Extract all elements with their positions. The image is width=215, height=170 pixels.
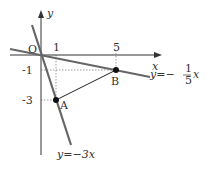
point-a-label: A xyxy=(59,99,69,112)
coordinate-diagram: y x O 1 5 -1 -3 A B y=−3x y=− 1 5 x xyxy=(0,0,215,170)
x-axis-arrow-icon xyxy=(154,52,162,58)
point-b xyxy=(113,67,119,73)
y-tick-neg1: -1 xyxy=(22,64,33,77)
y-axis-label: y xyxy=(46,7,54,20)
x-tick-1: 1 xyxy=(53,41,60,54)
point-b-label: B xyxy=(111,75,119,88)
y-axis-arrow-icon xyxy=(38,10,44,18)
line-y-neg3x xyxy=(32,25,71,145)
line-label-prefix: y=− xyxy=(149,68,175,81)
point-a xyxy=(53,97,59,103)
line-neg3x-label: y=−3x xyxy=(56,148,96,161)
line-label-suffix: x xyxy=(193,68,200,81)
y-tick-neg3: -3 xyxy=(22,94,33,107)
segment-ab xyxy=(56,70,116,100)
origin-label: O xyxy=(28,43,37,56)
x-tick-5: 5 xyxy=(113,41,120,54)
fraction-denominator: 5 xyxy=(185,74,192,87)
